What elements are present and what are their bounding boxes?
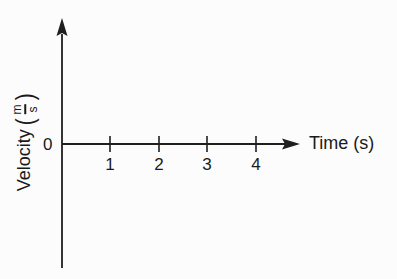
y-axis-title: Velocity ( m s ): [11, 93, 39, 191]
x-tick-label-3: 3: [202, 155, 211, 175]
unit-paren-close: ): [12, 94, 38, 101]
y-axis-title-text: Velocity: [15, 129, 36, 191]
x-tick-label-4: 4: [251, 155, 260, 175]
x-tick-label-1: 1: [105, 155, 114, 175]
y-axis-arrow-icon: [57, 18, 68, 36]
origin-label: 0: [43, 135, 52, 155]
unit-numerator: m: [11, 104, 23, 114]
x-tick-label-2: 2: [154, 155, 163, 175]
unit-denominator: s: [27, 106, 39, 112]
x-axis-title: Time (s): [309, 133, 374, 154]
unit-fraction: m s: [11, 104, 39, 114]
unit-paren-open: (: [12, 118, 38, 125]
velocity-time-graph: 0 1 2 3 4 Time (s) Velocity ( m s ): [0, 0, 397, 279]
